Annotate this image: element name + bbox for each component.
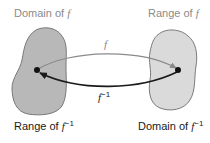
inverse-superscript: −1 — [65, 119, 74, 128]
label-text: Range of — [148, 7, 196, 19]
function-symbol: f — [67, 7, 70, 19]
point-x — [34, 67, 40, 73]
function-symbol: f — [196, 7, 199, 19]
domain-of-f-label: Domain of f — [14, 8, 70, 19]
arrow-label-text: f — [104, 38, 107, 50]
f-inverse-arrow-label: f−1 — [98, 92, 110, 103]
f-arrow-label: f — [104, 39, 107, 50]
point-y — [175, 67, 181, 73]
label-text: Domain of — [14, 7, 67, 19]
label-text: Domain of — [138, 120, 191, 132]
range-of-f-inverse-label: Range of f−1 — [14, 121, 74, 132]
domain-of-f-inverse-label: Domain of f−1 — [138, 121, 203, 132]
range-of-f-label: Range of f — [148, 8, 199, 19]
inverse-superscript: −1 — [101, 90, 110, 99]
range-f-set — [149, 30, 196, 110]
inverse-superscript: −1 — [194, 119, 203, 128]
label-text: Range of — [14, 120, 62, 132]
